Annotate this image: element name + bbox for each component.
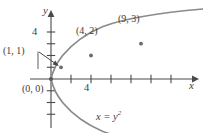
point-label-4-2: (4, 2) bbox=[76, 26, 98, 36]
point-marker-4-2 bbox=[89, 54, 93, 58]
equation-label: x = y2 bbox=[96, 110, 121, 122]
point-label-1-1: (1, 1) bbox=[3, 46, 25, 56]
x-axis-label: x bbox=[189, 80, 194, 91]
parabola-figure: y x 4 4 (0, 0) (1, 1) (4, 2) (9, 3) x = … bbox=[0, 0, 203, 133]
parabola-curve bbox=[51, 9, 203, 133]
x-tick-label-4: 4 bbox=[84, 83, 89, 94]
point-label-9-3: (9, 3) bbox=[118, 14, 140, 24]
y-axis-label: y bbox=[43, 5, 48, 16]
equation-exponent: 2 bbox=[118, 109, 122, 117]
data-point-markers bbox=[49, 42, 143, 81]
point-marker-0-0 bbox=[49, 77, 53, 81]
point-label-0-0: (0, 0) bbox=[22, 84, 44, 94]
point-marker-1-1 bbox=[59, 65, 63, 69]
point-marker-9-3 bbox=[139, 42, 143, 46]
equation-base: x = y bbox=[96, 111, 118, 122]
x-axis bbox=[30, 75, 199, 83]
y-tick-label-4: 4 bbox=[32, 27, 37, 38]
